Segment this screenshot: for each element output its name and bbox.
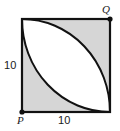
side-length-label-left: 10 (4, 60, 17, 71)
side-length-label-bottom: 10 (58, 115, 71, 126)
geometry-figure: Q P 10 10 (0, 0, 120, 131)
figure-canvas (0, 0, 120, 131)
vertex-label-P: P (17, 115, 24, 126)
vertex-label-Q: Q (102, 4, 110, 15)
vertex-dot-Q (107, 16, 112, 21)
